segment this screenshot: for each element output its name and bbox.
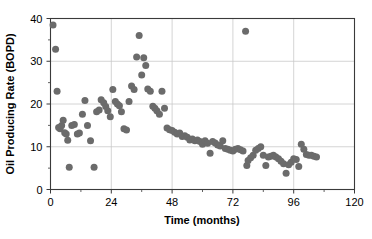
data-point — [140, 54, 147, 61]
data-point — [147, 88, 154, 95]
data-point — [161, 105, 168, 112]
data-point — [50, 21, 57, 28]
y-axis-title: Oil Producing Rate (BOPD) — [4, 33, 16, 175]
data-point — [313, 154, 320, 161]
data-point — [242, 28, 249, 35]
chart-figure: 024487296120 010203040 Time (months) Oil… — [0, 0, 372, 239]
data-point — [138, 71, 145, 78]
data-point — [87, 137, 94, 144]
data-point — [123, 127, 130, 134]
y-axis-tick-labels: 010203040 — [30, 13, 42, 196]
data-point — [136, 32, 143, 39]
data-point — [63, 130, 70, 137]
x-tick-label: 48 — [166, 196, 178, 208]
data-point — [219, 137, 226, 144]
data-point — [107, 113, 114, 120]
y-tick-label: 0 — [36, 184, 42, 196]
x-axis-tick-labels: 024487296120 — [47, 196, 363, 208]
minor-tickmarks — [48, 40, 324, 192]
data-point — [126, 98, 133, 105]
data-point — [257, 143, 264, 150]
gridlines — [51, 19, 355, 190]
data-point — [262, 162, 269, 169]
data-point — [79, 111, 86, 118]
data-point — [76, 130, 83, 137]
data-point — [52, 46, 59, 53]
x-tick-label: 72 — [227, 196, 239, 208]
data-point — [84, 122, 91, 129]
data-point — [240, 148, 247, 155]
data-point — [54, 88, 61, 95]
data-point — [158, 88, 165, 95]
data-point — [118, 108, 125, 115]
data-point — [207, 150, 214, 157]
y-tick-label: 30 — [30, 55, 42, 67]
y-tick-label: 20 — [30, 98, 42, 110]
data-point — [64, 137, 71, 144]
y-tick-label: 40 — [30, 13, 42, 25]
data-point — [133, 53, 140, 60]
data-point — [104, 107, 111, 114]
data-point — [60, 117, 67, 124]
data-points — [50, 21, 320, 176]
data-point — [71, 121, 78, 128]
data-point — [91, 164, 98, 171]
data-point — [116, 102, 123, 109]
x-axis-title: Time (months) — [164, 214, 240, 226]
data-point — [81, 97, 88, 104]
data-point — [295, 163, 302, 170]
data-point — [283, 170, 290, 177]
data-point — [109, 86, 116, 93]
data-point — [142, 62, 149, 69]
data-point — [131, 86, 138, 93]
x-tick-label: 0 — [47, 196, 53, 208]
y-tick-label: 10 — [30, 141, 42, 153]
data-point — [66, 164, 73, 171]
data-point — [156, 111, 163, 118]
data-point — [96, 106, 103, 113]
scatter-plot: 024487296120 010203040 Time (months) Oil… — [0, 0, 372, 239]
x-tick-label: 24 — [105, 196, 117, 208]
x-tick-label: 120 — [345, 196, 363, 208]
x-tick-label: 96 — [288, 196, 300, 208]
data-point — [293, 156, 300, 163]
